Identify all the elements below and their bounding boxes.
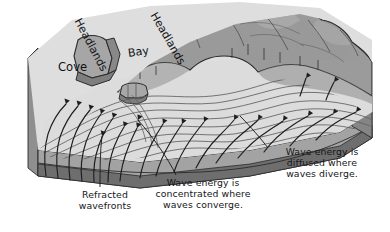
caption-energy-diffused: Wave energy is diffused where waves dive… bbox=[259, 146, 385, 180]
map-label-cove: Cove bbox=[58, 60, 87, 74]
caption-energy-concentrated: Wave energy is concentrated where waves … bbox=[141, 177, 265, 211]
figure-canvas: Cove Bay Headlands Headlands Refracted w… bbox=[0, 0, 390, 232]
